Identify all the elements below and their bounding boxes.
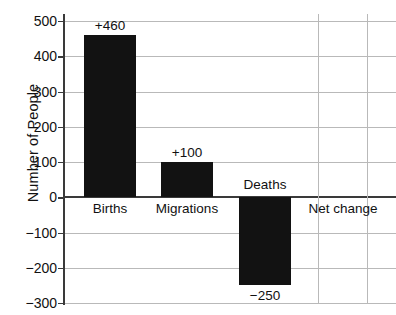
y-tick-label: 0 (0, 190, 57, 204)
y-tickmark (58, 162, 64, 163)
y-tick-label: 100 (0, 155, 57, 169)
category-label-migrations: Migrations (132, 201, 242, 216)
y-tick-label: 400 (0, 49, 57, 63)
category-label-deaths: Deaths (210, 177, 320, 192)
y-tick-label: 200 (0, 120, 57, 134)
value-label-deaths: −250 (220, 288, 310, 303)
y-tickmark (58, 268, 64, 269)
y-tick-label: −300 (0, 296, 57, 310)
value-label-births: +460 (65, 18, 155, 33)
gridline-vertical (318, 14, 319, 303)
y-tickmark (58, 197, 64, 198)
y-tickmark (58, 127, 64, 128)
y-tickmark (58, 92, 64, 93)
y-tick-label: 500 (0, 14, 57, 28)
category-label-net-change: Net change (288, 201, 396, 216)
y-axis-title: Number of People (25, 48, 41, 238)
value-label-migrations: +100 (142, 145, 232, 160)
y-axis-line (63, 14, 65, 305)
gridline-horizontal (63, 268, 396, 269)
plot-area: +460Births+100Migrations−250DeathsNet ch… (63, 14, 396, 305)
y-tickmark (58, 233, 64, 234)
y-tickmark (58, 21, 64, 22)
bar-deaths (239, 197, 291, 285)
bar-births (84, 35, 136, 197)
y-tick-label: 300 (0, 85, 57, 99)
y-tick-label: −100 (0, 226, 57, 240)
y-tickmark (58, 56, 64, 57)
bar-migrations (161, 162, 213, 197)
population-change-bar-chart: Number of People 5004003002001000−100−20… (0, 0, 396, 315)
gridline-vertical (367, 14, 368, 303)
gridline-horizontal (63, 233, 396, 234)
y-tickmark (58, 303, 64, 304)
y-tick-label: −200 (0, 261, 57, 275)
